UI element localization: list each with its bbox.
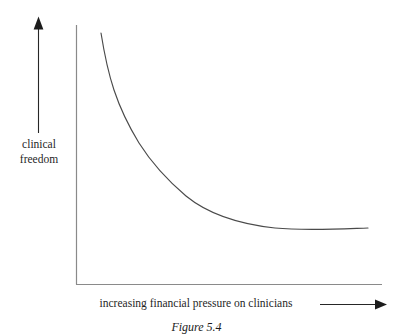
increasing-financial-pressure-arrow: [320, 300, 387, 310]
x-axis-label: increasing financial pressure on clinici…: [76, 296, 316, 311]
figure-container: clinical freedom increasing financial pr…: [0, 0, 393, 336]
figure-graphic: [0, 0, 393, 336]
y-axis-label-line-2: freedom: [0, 152, 78, 167]
clinical-freedom-decay-curve: [101, 33, 368, 230]
x-arrow-head-icon: [375, 300, 387, 310]
figure-caption: Figure 5.4: [0, 320, 393, 335]
y-arrow-head-icon: [34, 17, 44, 30]
y-axis-label-line-1: clinical: [0, 137, 78, 152]
increasing-clinical-freedom-arrow: [34, 17, 44, 134]
y-axis-label: clinical freedom: [0, 137, 78, 166]
